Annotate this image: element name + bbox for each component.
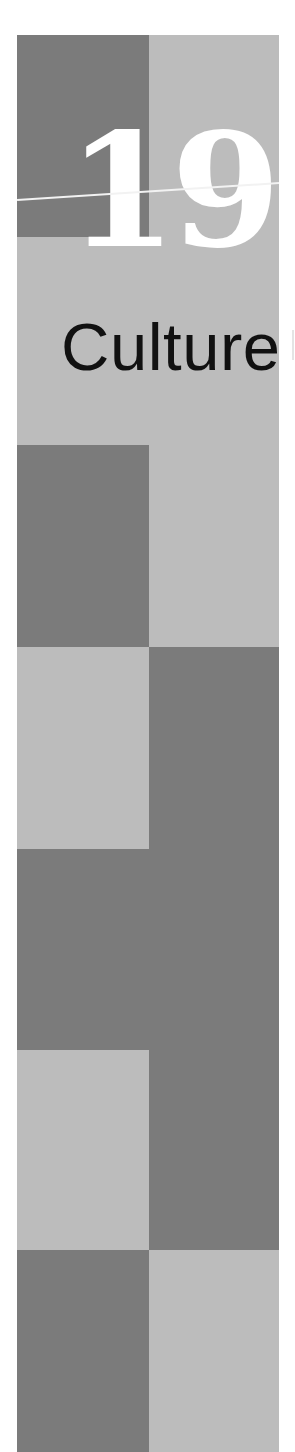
block-left-dark-2 (17, 445, 149, 647)
clipped-text-fragment (292, 330, 294, 360)
chapter-number: 19 (67, 121, 275, 261)
block-left-light-2 (17, 647, 149, 849)
block-left-dark-3 (17, 849, 149, 1050)
block-right-light-2 (149, 445, 279, 647)
block-right-light-3 (149, 1250, 279, 1452)
block-left-light-3 (17, 1050, 149, 1250)
block-right-dark-1 (149, 647, 279, 1250)
chapter-opener-strip: 19 Culture, (17, 35, 279, 1452)
block-left-dark-4 (17, 1250, 149, 1452)
chapter-title: Culture, (61, 307, 279, 387)
